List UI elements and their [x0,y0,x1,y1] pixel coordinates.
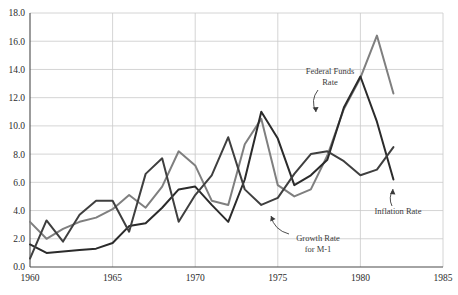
y-axis-tick-label: 12.0 [8,93,25,103]
x-axis-tick-label: 1985 [434,273,453,283]
y-axis-tick-label: 8.0 [13,150,25,160]
line-chart: 0.02.04.06.08.010.012.014.016.018.019601… [0,0,458,295]
y-axis-tick-label: 6.0 [13,178,25,188]
annotation-federal-funds-line2: Rate [322,77,338,87]
x-axis-tick-label: 1965 [103,273,122,283]
annotation-inflation-line1: Inflation Rate [375,206,422,216]
annotation-m1-growth-line2: for M-1 [305,244,332,254]
y-axis-tick-label: 18.0 [8,8,25,18]
y-axis-tick-label: 0.0 [13,262,25,272]
y-axis-tick-label: 16.0 [8,37,25,47]
x-axis-tick-label: 1975 [268,273,287,283]
chart-container: 0.02.04.06.08.010.012.014.016.018.019601… [0,0,458,295]
y-axis-tick-label: 10.0 [8,121,25,131]
x-axis-tick-label: 1980 [351,273,370,283]
annotation-m1-growth-line1: Growth Rate [296,233,340,243]
y-axis-tick-label: 14.0 [8,65,25,75]
x-axis-tick-label: 1960 [21,273,40,283]
y-axis-tick-label: 4.0 [13,206,25,216]
x-axis-tick-label: 1970 [186,273,205,283]
y-axis-tick-label: 2.0 [13,234,25,244]
annotation-federal-funds-line1: Federal Funds [306,66,354,76]
